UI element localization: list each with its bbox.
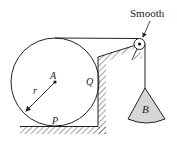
radius-label-r: r — [33, 85, 37, 96]
radius-arrow — [26, 82, 55, 111]
wall-contact-label-q: Q — [86, 76, 94, 87]
smooth-pointer-arrow — [143, 21, 150, 37]
diagram-canvas: Smooth A r Q P B — [0, 0, 177, 144]
floor-contact-label-p: P — [51, 115, 58, 126]
pulley-axle — [138, 42, 141, 45]
rope-horizontal — [55, 38, 139, 39]
smooth-label: Smooth — [130, 7, 165, 19]
weight-label-b: B — [142, 103, 149, 115]
center-label-a: A — [49, 70, 57, 81]
floor-hatching — [20, 127, 106, 134]
